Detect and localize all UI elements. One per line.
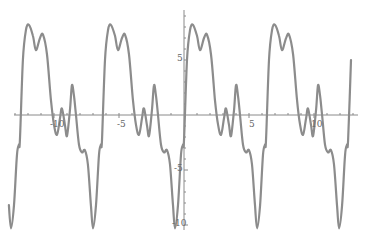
y-tick-label-neg10: -10 [172, 218, 187, 228]
x-tick-label-neg5: -5 [117, 119, 126, 129]
x-tick-label-10: 10 [311, 119, 323, 129]
y-tick-label-5: 5 [177, 53, 183, 63]
x-tick-label-5: 5 [249, 119, 255, 129]
y-tick-label-neg5: -5 [174, 163, 183, 173]
x-tick-label-neg10: -10 [50, 119, 65, 129]
line-chart: -10 -5 5 10 5 -5 -10 [0, 0, 366, 243]
